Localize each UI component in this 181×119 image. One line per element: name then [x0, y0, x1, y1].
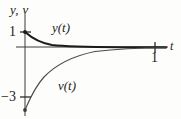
- t-tick-label-one: 1: [151, 51, 158, 65]
- y-curve-start-marker: [23, 30, 27, 34]
- v-curve-start-marker: [23, 108, 27, 112]
- curve-y-annotation: y(t): [52, 21, 70, 34]
- horizontal-axis-label: t: [170, 40, 173, 52]
- curve-v-of-t: [25, 48, 166, 110]
- y-tick-label-negative-three: −3: [1, 90, 16, 104]
- vertical-axis-label: y, v: [10, 3, 29, 16]
- curve-v-annotation: v(t): [58, 79, 76, 92]
- curve-y-of-t: [25, 32, 166, 47]
- exponential-decay-plot-figure: y, v y(t) v(t) t 1 −3 1: [0, 0, 181, 119]
- y-tick-label-one: 1: [9, 25, 16, 39]
